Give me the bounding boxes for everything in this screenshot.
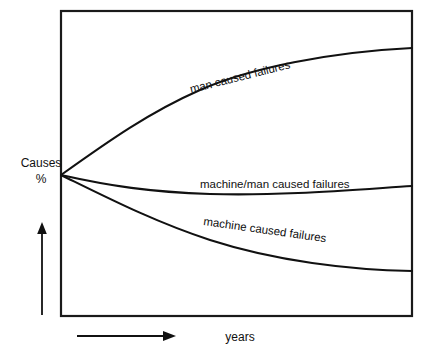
y-axis-label-line2: % bbox=[36, 172, 47, 186]
x-axis-direction-arrow bbox=[77, 331, 176, 341]
chart-canvas: Causes % years man caused failures machi… bbox=[0, 0, 424, 350]
plot-frame bbox=[61, 11, 412, 316]
x-axis-label: years bbox=[225, 330, 254, 344]
y-axis-direction-arrow bbox=[37, 222, 47, 315]
y-axis-label-line1: Causes bbox=[21, 156, 62, 170]
chart-figure: Causes % years man caused failures machi… bbox=[0, 0, 424, 350]
series-label-machine-man-caused-failures: machine/man caused failures bbox=[200, 178, 350, 190]
